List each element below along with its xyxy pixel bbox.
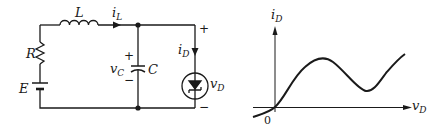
origin-label: 0 xyxy=(264,114,271,127)
current-arrow-il-icon xyxy=(113,22,121,29)
wire xyxy=(40,89,195,108)
circuit-diagram xyxy=(32,21,208,109)
battery-icon xyxy=(32,83,48,89)
diode-minus-sign: − xyxy=(199,100,209,114)
diode-voltage-label: vD xyxy=(210,76,225,93)
capacitor-label: C xyxy=(148,62,158,77)
y-axis-label: iD xyxy=(271,7,282,24)
figure: L iL R E + vC C − + iD vD − iD vD 0 xyxy=(0,0,436,134)
tunnel-diode-icon xyxy=(182,73,208,99)
x-axis-label: vD xyxy=(412,98,427,115)
junction-node-top xyxy=(135,22,140,27)
diode-current-label: iD xyxy=(178,42,189,59)
diode-plus-sign: + xyxy=(199,22,209,36)
inductor-icon xyxy=(60,21,98,25)
resistor-icon xyxy=(36,42,44,64)
source-label: E xyxy=(18,81,29,96)
current-arrow-id-icon xyxy=(192,48,199,56)
x-axis-arrow-icon xyxy=(403,105,412,110)
capacitor-voltage-label: vC xyxy=(110,61,124,78)
iv-characteristic-graph: iD vD 0 xyxy=(253,7,427,127)
capacitor-plus-sign: + xyxy=(124,49,134,63)
junction-node-bottom xyxy=(135,105,140,110)
capacitor-minus-sign: − xyxy=(124,73,134,87)
inductor-current-label: iL xyxy=(112,5,122,22)
resistor-label: R xyxy=(25,46,36,61)
y-axis-arrow-icon xyxy=(273,26,278,35)
inductor-label: L xyxy=(74,5,84,20)
